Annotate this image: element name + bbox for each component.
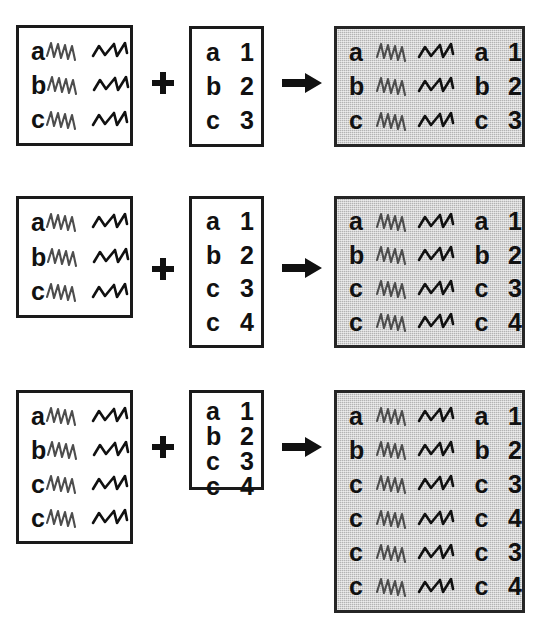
row-letter: b [206, 74, 240, 99]
table-row: c [19, 103, 130, 137]
dense-zigzag-icon [46, 74, 84, 96]
row-letter: c [31, 506, 45, 531]
table-row: c [19, 274, 130, 309]
row-letter: b [349, 243, 375, 268]
row-letter: a [206, 399, 240, 424]
row-letter: a [206, 40, 240, 65]
row-number: 1 [508, 40, 522, 65]
right-table: a1b2c3 [189, 26, 264, 147]
table-row: a [19, 399, 130, 433]
dense-zigzag-icon [375, 278, 411, 300]
row-number: 2 [508, 438, 522, 463]
row-letter-joined: c [475, 574, 508, 599]
row-number: 2 [240, 74, 254, 99]
row-letter: c [31, 107, 45, 132]
row-number: 2 [240, 424, 254, 449]
sparse-zigzag-icon [92, 246, 134, 268]
dense-zigzag-icon [45, 109, 83, 131]
dense-zigzag-icon [46, 439, 84, 461]
row-number: 2 [240, 243, 254, 268]
arrow-operator [282, 437, 322, 457]
row-letter-joined: c [475, 276, 508, 301]
row-letter: b [349, 438, 375, 463]
plus-operator [151, 71, 175, 95]
sparse-zigzag-icon [91, 405, 133, 427]
row-letter: b [31, 73, 46, 98]
row-letter-joined: c [475, 310, 508, 335]
row-number: 4 [508, 506, 522, 531]
row-letter: c [206, 310, 240, 335]
table-row: bb2 [337, 69, 522, 103]
result-table: aa1bb2cc3 [334, 26, 525, 147]
table-row: c4 [192, 306, 261, 340]
table-row: cc3 [337, 272, 522, 306]
right-table: a1b2c3c4 [189, 390, 264, 490]
dense-zigzag-icon [375, 508, 411, 530]
dense-zigzag-icon [375, 439, 411, 461]
right-table: a1b2c3c4 [189, 196, 264, 348]
table-row: aa1 [337, 205, 522, 239]
row-letter: c [349, 540, 375, 565]
row-number: 3 [240, 276, 254, 301]
row-letter: c [349, 108, 375, 133]
dense-zigzag-icon [375, 110, 411, 132]
row-number: 3 [240, 108, 254, 133]
table-row: b [19, 240, 130, 275]
row-letter: b [349, 74, 375, 99]
row-letter: a [31, 39, 45, 64]
sparse-zigzag-icon [417, 405, 461, 427]
row-letter: c [206, 108, 240, 133]
sparse-zigzag-icon [417, 311, 461, 333]
row-number: 3 [508, 276, 522, 301]
plus-icon [151, 435, 175, 459]
row-letter: a [349, 404, 375, 429]
left-table: abcc [16, 390, 133, 544]
sparse-zigzag-icon [417, 439, 461, 461]
table-row: a [19, 205, 130, 240]
right-arrow-icon [282, 258, 322, 278]
table-row: b [19, 433, 130, 467]
table-row: aa1 [337, 35, 522, 69]
table-row: a1 [192, 205, 261, 239]
row-number: 4 [240, 474, 254, 499]
row-letter: c [349, 276, 375, 301]
table-row: bb2 [337, 239, 522, 273]
dense-zigzag-icon [375, 542, 411, 564]
table-row: cc3 [337, 536, 522, 570]
sparse-zigzag-icon [417, 278, 461, 300]
join-diagram: abca1b2c3aa1bb2cc3abca1b2c3c4aa1bb2cc3cc… [0, 0, 543, 624]
row-letter-joined: b [475, 438, 508, 463]
sparse-zigzag-icon [91, 40, 133, 62]
row-letter: c [206, 276, 240, 301]
row-letter-joined: a [475, 404, 508, 429]
dense-zigzag-icon [375, 211, 411, 233]
row-letter-joined: b [475, 243, 508, 268]
row-letter: a [349, 209, 375, 234]
row-number: 3 [508, 472, 522, 497]
sparse-zigzag-icon [417, 244, 461, 266]
row-letter: c [206, 449, 240, 474]
sparse-zigzag-icon [91, 473, 133, 495]
dense-zigzag-icon [46, 246, 84, 268]
row-letter: c [349, 574, 375, 599]
table-row: c3 [192, 104, 261, 138]
sparse-zigzag-icon [417, 473, 461, 495]
right-arrow-icon [282, 73, 322, 93]
sparse-zigzag-icon [417, 211, 461, 233]
table-row: b2 [192, 69, 261, 103]
row-letter: c [349, 506, 375, 531]
result-table: aa1bb2cc3cc4cc3cc4 [334, 390, 525, 613]
row-letter: a [349, 40, 375, 65]
row-number: 3 [240, 449, 254, 474]
plus-icon [151, 71, 175, 95]
table-row: cc4 [337, 502, 522, 536]
plus-operator [151, 435, 175, 459]
left-table: abc [16, 25, 133, 146]
row-number: 2 [508, 74, 522, 99]
row-letter: a [31, 404, 45, 429]
row-number: 4 [240, 310, 254, 335]
arrow-operator [282, 258, 322, 278]
dense-zigzag-icon [45, 40, 83, 62]
row-letter: c [349, 472, 375, 497]
dense-zigzag-icon [375, 405, 411, 427]
